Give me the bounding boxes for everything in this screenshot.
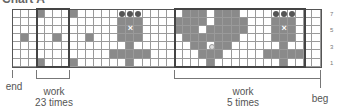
chart-cell: [13, 18, 21, 26]
chart-cell: [94, 10, 102, 18]
chart-cell: [70, 34, 78, 42]
chart-cell: [86, 59, 94, 67]
chart-cell: [78, 26, 86, 34]
chart-cell: [151, 34, 159, 42]
chart-cell: [94, 18, 102, 26]
chart-cell: [151, 26, 159, 34]
chart-cell: [159, 59, 167, 67]
chart-cell: [102, 59, 110, 67]
chart-cell: [70, 50, 78, 58]
chart-cell: [70, 42, 78, 50]
chart-cell: [118, 10, 126, 18]
beg-marker-tick: [320, 70, 321, 88]
chart-cell: [21, 59, 29, 67]
repeat2-label: work 5 times: [215, 86, 271, 108]
row-number-5: 5: [330, 27, 333, 33]
chart-cell: [78, 50, 86, 58]
end-marker-tick: [12, 70, 13, 78]
chart-cell: [159, 10, 167, 18]
row-number-7: 7: [330, 11, 333, 17]
chart-cell: [126, 50, 134, 58]
repeat2-bracket-left: [174, 70, 175, 78]
repeat1-label-line1: work: [26, 86, 82, 97]
chart-cell: [159, 42, 167, 50]
chart-cell: [126, 42, 134, 50]
chart-cell: [21, 42, 29, 50]
repeat1-label-line2: 23 times: [26, 97, 82, 108]
repeat1-label: work 23 times: [26, 86, 82, 108]
chart-cell: [94, 42, 102, 50]
chart-cell: [143, 10, 151, 18]
chart-cell: [312, 59, 320, 67]
chart-cell: [126, 34, 134, 42]
repeat1-bracket-line: [36, 78, 70, 79]
chart-cell: [110, 59, 118, 67]
chart-cell: [134, 34, 142, 42]
chart-cell: [86, 34, 94, 42]
chart-cell: [143, 42, 151, 50]
chart-cell: [86, 50, 94, 58]
chart-cell: [94, 34, 102, 42]
chart-cell: [134, 26, 142, 34]
chart-cell: [312, 42, 320, 50]
repeat-box-23-times: [36, 8, 70, 68]
chart-cell: [13, 26, 21, 34]
chart-cell: [143, 18, 151, 26]
chart-cell: [134, 18, 142, 26]
chart-cell: [78, 18, 86, 26]
beg-label: beg: [306, 93, 334, 104]
chart-cell: [21, 26, 29, 34]
chart-cell: [151, 42, 159, 50]
chart-cell: [70, 59, 78, 67]
chart-cell: [94, 26, 102, 34]
chart-cell: [86, 10, 94, 18]
chart-cell: [110, 26, 118, 34]
chart-cell: [159, 18, 167, 26]
chart-cell: [151, 18, 159, 26]
chart-cell: [78, 59, 86, 67]
chart-cell: [13, 59, 21, 67]
chart-cell: [21, 10, 29, 18]
repeat2-label-line1: work: [215, 86, 271, 97]
chart-cell: [102, 10, 110, 18]
chart-cell: [102, 42, 110, 50]
chart-cell: [13, 10, 21, 18]
chart-cell: [86, 18, 94, 26]
chart-cell: [126, 26, 134, 34]
chart-cell: [134, 10, 142, 18]
row-number-1: 1: [330, 60, 333, 66]
chart-cell: [118, 59, 126, 67]
chart-cell: [312, 18, 320, 26]
chart-title: Chart A: [2, 0, 45, 6]
chart-cell: [13, 50, 21, 58]
repeat2-label-line2: 5 times: [215, 97, 271, 108]
chart-cell: [70, 18, 78, 26]
end-label: end: [2, 81, 26, 92]
chart-cell: [134, 59, 142, 67]
chart-cell: [126, 59, 134, 67]
chart-cell: [110, 18, 118, 26]
chart-cell: [118, 34, 126, 42]
chart-cell: [94, 59, 102, 67]
chart-cell: [151, 10, 159, 18]
repeat1-bracket-left: [36, 70, 37, 78]
chart-cell: [21, 34, 29, 42]
chart-cell: [86, 26, 94, 34]
chart-cell: [312, 10, 320, 18]
repeat-box-5-times: [174, 8, 306, 68]
chart-cell: [159, 26, 167, 34]
chart-cell: [126, 10, 134, 18]
chart-cell: [13, 34, 21, 42]
chart-cell: [134, 50, 142, 58]
chart-cell: [143, 34, 151, 42]
chart-cell: [70, 10, 78, 18]
chart-cell: [110, 34, 118, 42]
chart-cell: [118, 18, 126, 26]
chart-cell: [118, 26, 126, 34]
chart-cell: [151, 59, 159, 67]
chart-cell: [102, 50, 110, 58]
chart-cell: [159, 50, 167, 58]
chart-cell: [102, 18, 110, 26]
chart-cell: [312, 26, 320, 34]
chart-cell: [159, 34, 167, 42]
